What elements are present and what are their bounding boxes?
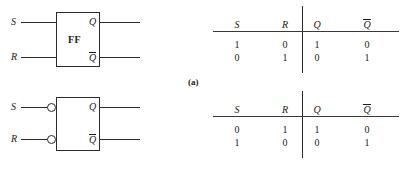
output-wire-q	[99, 22, 140, 23]
truth-table-active-low: S R Q Q 0 1 1 0 1 0 0 1	[213, 91, 399, 159]
flip-flop-block-label: FF	[68, 35, 81, 45]
inverter-bubble-s	[47, 103, 56, 112]
table-header-rule	[213, 116, 399, 117]
table-header-rule	[213, 31, 399, 32]
table-header-qbar: Q	[356, 104, 378, 115]
output-label-qbar: Q	[89, 134, 96, 145]
output-wire-q	[99, 107, 140, 108]
table-header-qbar: Q	[356, 19, 378, 30]
cell-r: 0	[274, 137, 296, 148]
cell-q: 1	[306, 124, 328, 135]
cell-q: 0	[306, 137, 328, 148]
table-header-r: R	[274, 19, 296, 30]
cell-s: 0	[226, 124, 248, 135]
flip-flop-diagram-active-low: S R Q Q	[0, 90, 200, 177]
output-label-qbar-text: Q	[89, 134, 96, 144]
output-label-q: Q	[89, 17, 96, 27]
table-header-s-text: S	[235, 19, 240, 30]
table-header-r: R	[274, 104, 296, 115]
output-label-q: Q	[89, 102, 96, 112]
table-header-q-text: Q	[313, 19, 320, 30]
cell-s: 0	[226, 52, 248, 63]
output-label-qbar-text: Q	[89, 52, 96, 62]
inverter-bubble-r	[47, 135, 56, 144]
table-header-r-text: R	[282, 104, 288, 115]
input-label-s: S	[11, 102, 16, 112]
cell-q: 1	[306, 39, 328, 50]
panel-label-a: (a)	[188, 78, 199, 87]
cell-r: 1	[274, 52, 296, 63]
input-label-r: R	[11, 52, 17, 62]
table-header-r-text: R	[282, 19, 288, 30]
cell-qbar: 1	[356, 137, 378, 148]
figure-root: S R FF Q Q S R Q Q	[0, 0, 405, 177]
input-wire-r	[21, 139, 48, 140]
output-wire-qbar	[99, 139, 140, 140]
input-wire-s	[21, 22, 56, 23]
output-wire-qbar	[99, 57, 140, 58]
input-wire-r	[21, 57, 56, 58]
cell-s: 1	[226, 137, 248, 148]
table-header-qbar-text: Q	[363, 19, 371, 30]
cell-qbar: 0	[356, 124, 378, 135]
input-label-r: R	[11, 134, 17, 144]
table-header-q: Q	[306, 104, 328, 115]
flip-flop-diagram-active-high: S R FF Q Q	[0, 0, 200, 88]
table-divider	[302, 91, 303, 158]
cell-s: 1	[226, 39, 248, 50]
cell-r: 1	[274, 124, 296, 135]
input-label-s: S	[11, 17, 16, 27]
cell-qbar: 0	[356, 39, 378, 50]
table-header-q: Q	[306, 19, 328, 30]
cell-r: 0	[274, 39, 296, 50]
table-header-q-text: Q	[313, 104, 320, 115]
input-wire-s	[21, 107, 48, 108]
table-header-s: S	[226, 104, 248, 115]
truth-table-active-high: S R Q Q 1 0 1 0 0 1 0 1	[213, 6, 399, 74]
table-header-s: S	[226, 19, 248, 30]
output-label-qbar: Q	[89, 52, 96, 63]
table-divider	[302, 6, 303, 73]
cell-q: 0	[306, 52, 328, 63]
table-header-s-text: S	[235, 104, 240, 115]
table-header-qbar-text: Q	[363, 104, 371, 115]
cell-qbar: 1	[356, 52, 378, 63]
